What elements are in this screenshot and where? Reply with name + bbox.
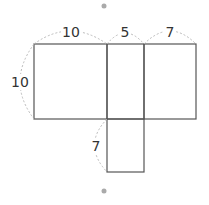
label-bottom-tab: 7 — [92, 138, 101, 154]
label-top-middle: 5 — [121, 24, 130, 40]
diagram-canvas: 10 5 7 10 7 — [0, 0, 209, 205]
label-left-side: 10 — [11, 74, 29, 90]
face-bottom — [107, 119, 144, 172]
face-right — [144, 44, 196, 119]
face-middle — [107, 44, 144, 119]
top-dot — [102, 4, 107, 9]
bottom-dot — [102, 189, 107, 194]
label-top-left: 10 — [62, 24, 80, 40]
face-left — [34, 44, 107, 119]
label-top-right: 7 — [166, 24, 175, 40]
prism-net-diagram: 10 5 7 10 7 — [0, 0, 209, 205]
